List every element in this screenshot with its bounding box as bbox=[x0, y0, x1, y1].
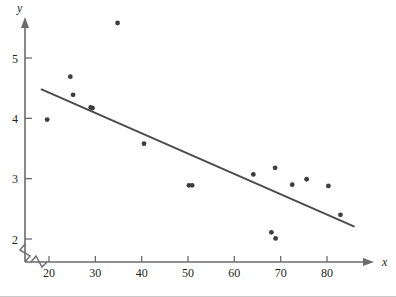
x-tick-label: 20 bbox=[43, 266, 55, 280]
data-point bbox=[273, 236, 278, 241]
x-tick-label: 30 bbox=[89, 266, 101, 280]
y-axis-arrowhead bbox=[21, 17, 29, 28]
data-point bbox=[290, 182, 295, 187]
y-tick-label: 5 bbox=[12, 52, 18, 66]
data-point bbox=[273, 165, 278, 170]
data-point bbox=[251, 172, 256, 177]
scatter-plot-figure: 203040506070802345 x y bbox=[0, 0, 396, 297]
data-point bbox=[90, 106, 95, 111]
data-point bbox=[326, 184, 331, 189]
x-tick-label: 50 bbox=[182, 266, 194, 280]
data-point bbox=[71, 92, 76, 97]
x-tick-label: 40 bbox=[136, 266, 148, 280]
x-axis-arrowhead bbox=[363, 258, 374, 266]
axes-group bbox=[20, 17, 374, 267]
data-point bbox=[338, 212, 343, 217]
y-tick-label: 4 bbox=[12, 112, 18, 126]
plot-canvas: 203040506070802345 x y bbox=[0, 0, 396, 297]
y-tick-label: 3 bbox=[12, 172, 18, 186]
data-point bbox=[45, 117, 50, 122]
data-point bbox=[115, 21, 120, 26]
y-axis-label: y bbox=[16, 1, 23, 15]
x-tick-label: 60 bbox=[228, 266, 240, 280]
x-tick-label: 70 bbox=[275, 266, 287, 280]
data-point bbox=[68, 74, 73, 79]
x-axis-label: x bbox=[381, 255, 388, 269]
tick-label-group: 203040506070802345 bbox=[12, 52, 333, 281]
x-tick-label: 80 bbox=[321, 266, 333, 280]
data-point bbox=[269, 230, 274, 235]
tick-group bbox=[25, 58, 327, 262]
regression-line bbox=[42, 89, 354, 226]
data-point-group bbox=[45, 21, 343, 241]
data-point bbox=[142, 141, 147, 146]
data-point bbox=[190, 183, 195, 188]
y-tick-label: 2 bbox=[12, 233, 18, 247]
data-point bbox=[304, 177, 309, 182]
regression-line-group bbox=[42, 89, 354, 226]
